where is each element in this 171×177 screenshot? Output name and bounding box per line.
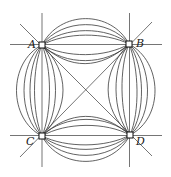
point-a-marker bbox=[39, 42, 45, 48]
label-c: C bbox=[26, 135, 35, 148]
label-d: D bbox=[135, 135, 145, 148]
point-d-marker bbox=[127, 132, 133, 138]
label-a: A bbox=[27, 38, 36, 51]
field-lines-diagram: A B C D bbox=[0, 0, 171, 177]
point-b-marker bbox=[126, 41, 132, 47]
diagram-canvas: A B C D bbox=[0, 0, 171, 177]
label-b: B bbox=[135, 37, 144, 50]
right-field-lines bbox=[116, 44, 155, 135]
left-field-lines bbox=[17, 45, 56, 136]
point-c-marker bbox=[39, 133, 45, 139]
